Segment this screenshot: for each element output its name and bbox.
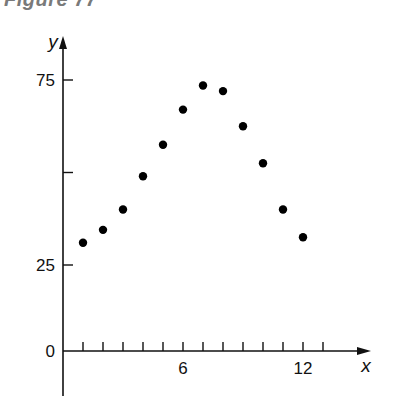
data-points <box>79 81 307 247</box>
y-tick-label: 25 <box>36 256 55 275</box>
data-point <box>299 233 307 241</box>
x-tick-label: 12 <box>294 359 313 378</box>
scatter-plot: 61202575xy <box>0 0 400 420</box>
y-tick-label: 75 <box>36 71 55 90</box>
data-point <box>239 122 247 130</box>
data-point <box>199 81 207 89</box>
y-tick-label: 0 <box>46 342 55 361</box>
data-point <box>159 141 167 149</box>
y-axis-arrow-icon <box>59 36 67 49</box>
data-point <box>79 239 87 247</box>
data-point <box>119 205 127 213</box>
data-point <box>179 105 187 113</box>
x-axis-arrow-icon <box>357 347 371 355</box>
data-point <box>279 205 287 213</box>
data-point <box>259 159 267 167</box>
y-axis-label: y <box>46 31 59 52</box>
data-point <box>219 87 227 95</box>
x-axis-label: x <box>360 355 372 376</box>
data-point <box>99 226 107 234</box>
x-tick-label: 6 <box>178 359 187 378</box>
data-point <box>139 172 147 180</box>
